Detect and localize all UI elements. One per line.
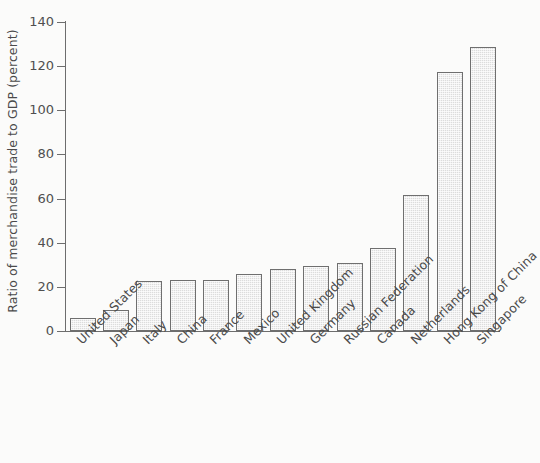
y-axis-tick-label: 100: [12, 103, 54, 116]
y-axis-tick-label: 20: [12, 280, 54, 293]
y-axis-tick: [57, 199, 66, 200]
y-axis-tick-label: 140: [12, 15, 54, 28]
y-axis-tick: [57, 22, 66, 23]
y-axis-tick-label: 40: [12, 236, 54, 249]
y-axis-tick: [57, 66, 66, 67]
y-axis-tick: [57, 110, 66, 111]
y-axis-tick-label: 0: [12, 324, 54, 337]
y-axis-tick-label: 80: [12, 147, 54, 160]
y-axis-tick: [57, 287, 66, 288]
y-axis-tick: [57, 243, 66, 244]
x-axis-labels: United StatesJapanItalyChinaFranceMexico…: [66, 334, 507, 463]
y-axis-tick-label: 60: [12, 192, 54, 205]
y-axis-tick-label: 120: [12, 59, 54, 72]
y-axis-tick: [57, 154, 66, 155]
y-axis-tick: [57, 331, 66, 332]
